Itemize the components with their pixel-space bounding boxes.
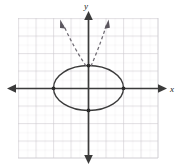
point-bottom-vertex [87, 109, 91, 113]
point-left-vertex [52, 86, 56, 90]
x-axis-left-arrowhead [7, 84, 16, 93]
y-axis-label: y [83, 1, 88, 11]
point-top-vertex [87, 64, 91, 68]
x-axis-label: x [169, 84, 174, 94]
y-axis-up-arrowhead [84, 11, 93, 20]
graph-figure: x y [0, 0, 182, 165]
y-axis-down-arrowhead [84, 155, 93, 164]
x-axis-right-arrowhead [158, 84, 167, 93]
coordinate-plane-svg: x y [0, 0, 182, 165]
point-right-vertex [122, 86, 126, 90]
